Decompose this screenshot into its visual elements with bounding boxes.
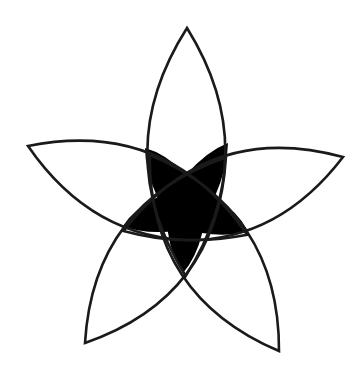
flower-star-diagram <box>0 0 360 368</box>
